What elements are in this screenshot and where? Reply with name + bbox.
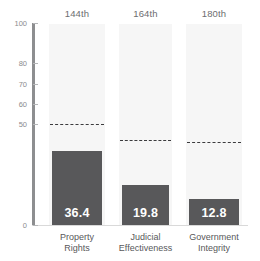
x-axis-baseline (32, 225, 248, 226)
y-tick-label-5: 0 (5, 221, 27, 230)
column-band-2 (186, 24, 242, 225)
y-tick-label-2: 70 (5, 80, 27, 89)
y-tick-mark-4 (33, 124, 38, 125)
y-tick-label-1: 80 (5, 59, 27, 68)
reference-line-1 (120, 140, 171, 141)
y-tick-mark-3 (33, 104, 38, 105)
y-tick-mark-2 (33, 84, 38, 85)
category-label-0: Property Rights (38, 232, 116, 253)
reference-line-0 (50, 124, 104, 125)
y-tick-label-4: 50 (5, 120, 27, 129)
bar-value-0: 36.4 (49, 206, 105, 220)
category-label-1: Judicial Effectiveness (108, 232, 183, 253)
bar-value-1: 19.8 (119, 206, 172, 220)
y-tick-label-0: 100 (5, 19, 27, 28)
y-tick-mark-0 (33, 23, 38, 24)
y-tick-mark-1 (33, 63, 38, 64)
y-tick-mark-5 (33, 225, 38, 226)
y-tick-label-3: 60 (5, 100, 27, 109)
category-label-2: Government Integrity (175, 232, 253, 253)
reference-line-2 (187, 142, 241, 143)
bar-chart: 144th 164th 180th 100 80 70 60 50 0 36.4… (0, 0, 260, 261)
plot-area: 100 80 70 60 50 0 36.4 19.8 12.8 Propert… (0, 0, 260, 261)
bar-value-2: 12.8 (186, 206, 242, 220)
